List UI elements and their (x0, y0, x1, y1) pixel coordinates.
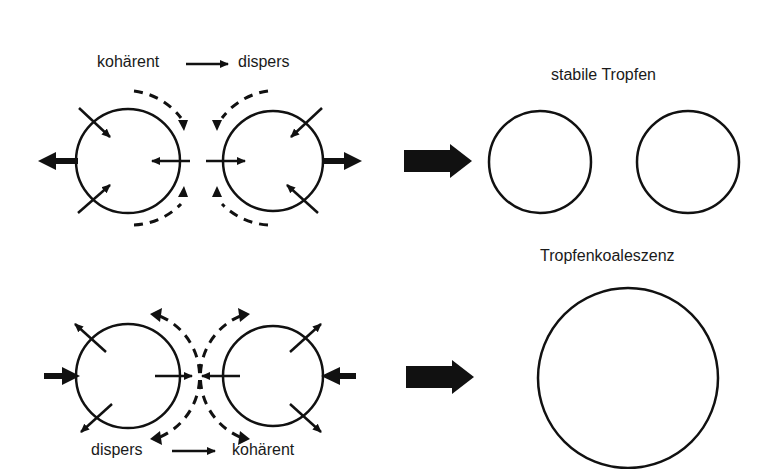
bottom-to-label: kohärent (232, 441, 294, 459)
top-result-arrow (404, 144, 472, 178)
coalesced-droplet (538, 288, 718, 468)
bottom-from-label: dispers (91, 441, 143, 459)
top-from-label: kohärent (97, 53, 159, 71)
stable-droplet-2 (637, 111, 739, 213)
bottom-result-arrow (406, 360, 474, 394)
coalescence-label: Tropfenkoaleszenz (540, 247, 675, 265)
top-to-label: dispers (238, 53, 290, 71)
bottom-right-droplet (200, 308, 356, 445)
top-right-droplet (206, 91, 362, 225)
stable-droplets-label: stabile Tropfen (551, 66, 656, 84)
top-left-droplet (38, 91, 190, 225)
stable-droplet-1 (489, 111, 591, 213)
bottom-left-droplet (44, 308, 200, 445)
